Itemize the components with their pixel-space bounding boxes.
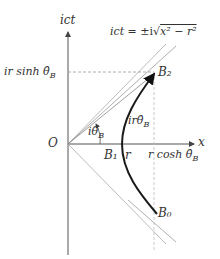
cosh-sub: B bbox=[192, 154, 198, 163]
arc-label: irθ̂B bbox=[128, 115, 149, 129]
point-b0-label: B₀ bbox=[158, 207, 172, 219]
curve-equation: ict = ±i√x² − r² bbox=[110, 26, 197, 37]
eq-lhs: ict bbox=[110, 25, 124, 38]
hyperbola-diagram: ict x O ict = ±i√x² − r² ir sinh θ̂B B₂ … bbox=[0, 0, 220, 259]
r-label: r bbox=[125, 149, 131, 161]
arc-sub: B bbox=[143, 120, 149, 129]
horizontal-axis-label: x bbox=[198, 136, 205, 148]
sinh-sub: B bbox=[50, 71, 56, 80]
cosh-label: r cosh θ̂B bbox=[148, 149, 198, 163]
sinh-label: ir sinh θ̂B bbox=[4, 66, 56, 80]
vertical-axis-label: ict bbox=[60, 14, 75, 26]
asymptote-upper bbox=[68, 46, 176, 144]
angle-text: iθ̂ bbox=[88, 125, 98, 138]
diagram-canvas bbox=[0, 0, 220, 259]
eq-rhs-prefix: = ±i bbox=[128, 25, 153, 38]
cosh-prefix: r cosh θ̂ bbox=[148, 148, 192, 161]
angle-sub: B bbox=[98, 131, 104, 140]
eq-radicand: x² − r² bbox=[160, 25, 197, 38]
ray-to-b2 bbox=[68, 74, 154, 144]
sinh-prefix: ir sinh θ̂ bbox=[4, 65, 50, 78]
point-b1-label: B₁ bbox=[104, 149, 118, 161]
angle-label: iθ̂B bbox=[88, 126, 104, 140]
arc-text: irθ̂ bbox=[128, 114, 143, 127]
origin-label: O bbox=[48, 137, 58, 149]
asymptote-upper-light bbox=[68, 44, 166, 144]
point-b2-label: B₂ bbox=[158, 66, 172, 78]
